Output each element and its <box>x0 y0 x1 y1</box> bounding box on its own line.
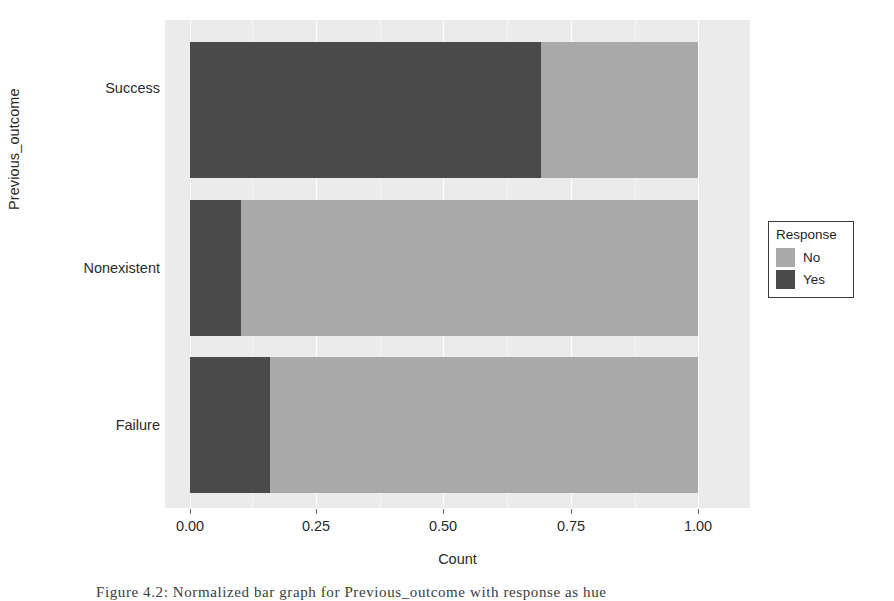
x-tick-label-000: 0.00 <box>155 518 225 534</box>
bar-segment-yes[interactable] <box>190 357 270 493</box>
y-tick-failure: Failure <box>20 417 160 433</box>
figure-caption: Figure 4.2: Normalized bar graph for Pre… <box>96 584 796 601</box>
gridline-major <box>698 20 699 508</box>
x-tick-mark <box>443 509 444 514</box>
bar-segment-no[interactable] <box>241 200 698 336</box>
legend-item-no[interactable]: No <box>776 246 846 268</box>
x-tick-mark <box>698 509 699 514</box>
bar-segment-no[interactable] <box>270 357 698 493</box>
x-tick-mark <box>190 509 191 514</box>
y-axis-title: Previous_outcome <box>6 10 22 210</box>
legend-label-no: No <box>803 250 820 265</box>
x-tick-label-100: 1.00 <box>663 518 733 534</box>
bar-segment-no[interactable] <box>541 42 698 178</box>
plot-panel <box>165 20 750 508</box>
y-tick-label: Success <box>20 80 160 96</box>
figure-container: Previous_outcome Success Nonexistent Fai… <box>0 0 894 601</box>
legend-color-swatch-no <box>776 248 795 267</box>
x-axis-title: Count <box>165 551 750 567</box>
x-tick-label-025: 0.25 <box>281 518 351 534</box>
x-tick-mark <box>571 509 572 514</box>
bar-segment-yes[interactable] <box>190 42 541 178</box>
legend: Response No Yes <box>768 221 854 298</box>
y-tick-nonexistent: Nonexistent <box>20 260 160 276</box>
legend-title: Response <box>776 227 846 242</box>
x-tick-mark <box>316 509 317 514</box>
x-tick-label-050: 0.50 <box>408 518 478 534</box>
legend-color-swatch-yes <box>776 270 795 289</box>
legend-item-yes[interactable]: Yes <box>776 268 846 290</box>
y-tick-label: Nonexistent <box>20 260 160 276</box>
y-tick-success: Success <box>20 80 160 96</box>
bar-segment-yes[interactable] <box>190 200 241 336</box>
x-tick-label-075: 0.75 <box>536 518 606 534</box>
legend-label-yes: Yes <box>803 272 825 287</box>
y-tick-label: Failure <box>20 417 160 433</box>
